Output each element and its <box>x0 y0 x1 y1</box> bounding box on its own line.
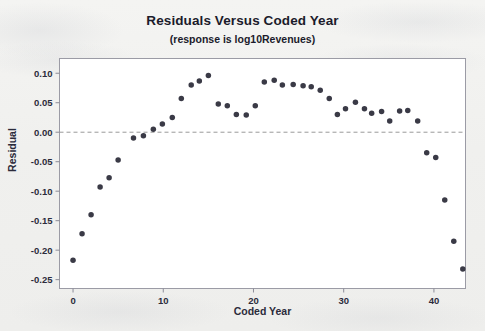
data-point <box>327 96 333 102</box>
x-tick-label: 10 <box>158 295 169 306</box>
data-point <box>234 112 240 118</box>
x-tick-label: 20 <box>248 295 259 306</box>
data-point <box>79 231 85 237</box>
data-point <box>405 108 411 114</box>
plot-frame <box>60 59 466 289</box>
data-point <box>244 112 250 118</box>
y-axis-ticks: 0.100.050.00-0.05-0.10-0.15-0.20-0.25 <box>31 68 60 285</box>
data-point <box>88 212 94 218</box>
data-point <box>451 239 457 245</box>
data-point <box>70 257 76 263</box>
data-point <box>300 83 306 89</box>
data-point <box>271 78 277 84</box>
x-tick-label: 40 <box>429 295 440 306</box>
x-axis-ticks: 010203040 <box>70 289 439 306</box>
data-point <box>160 121 166 127</box>
data-point <box>460 266 466 272</box>
data-point <box>197 78 203 84</box>
data-point <box>317 88 323 94</box>
y-tick-label: 0.10 <box>34 68 53 79</box>
y-tick-label: 0.00 <box>34 127 53 138</box>
data-point <box>179 96 185 102</box>
data-point <box>216 101 222 107</box>
data-point <box>442 197 448 203</box>
residual-plot-figure: Residuals Versus Coded Year (response is… <box>0 0 485 331</box>
data-point <box>151 127 157 133</box>
data-point <box>343 106 349 112</box>
data-point <box>308 84 314 90</box>
data-point <box>290 82 296 88</box>
data-point <box>335 112 341 118</box>
data-point <box>379 109 385 115</box>
data-point <box>115 157 121 163</box>
y-tick-label: -0.25 <box>31 274 53 285</box>
data-point <box>280 82 286 88</box>
y-tick-label: -0.10 <box>31 186 53 197</box>
x-tick-label: 0 <box>70 295 75 306</box>
data-point <box>97 184 103 190</box>
plot-canvas: 0.100.050.00-0.05-0.10-0.15-0.20-0.25 01… <box>0 0 485 331</box>
data-point <box>141 133 147 139</box>
x-tick-label: 30 <box>338 295 349 306</box>
data-point <box>225 103 231 109</box>
data-point <box>206 73 212 79</box>
data-point <box>369 111 375 117</box>
y-tick-label: -0.20 <box>31 245 53 256</box>
data-point <box>353 99 359 105</box>
data-point <box>262 79 268 85</box>
y-tick-label: 0.05 <box>34 97 53 108</box>
data-point <box>106 175 112 181</box>
data-point <box>424 150 430 156</box>
data-point <box>387 118 393 124</box>
data-point <box>131 135 137 141</box>
data-point <box>415 118 421 124</box>
data-point <box>253 103 259 109</box>
data-point <box>170 115 176 121</box>
data-point <box>397 108 403 114</box>
data-point <box>188 82 194 88</box>
data-point <box>433 155 439 161</box>
y-tick-label: -0.15 <box>31 215 53 226</box>
y-tick-label: -0.05 <box>31 156 53 167</box>
data-point <box>362 106 368 112</box>
